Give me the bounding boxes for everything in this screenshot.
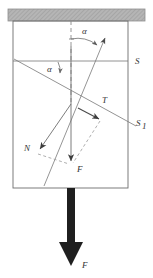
f-outer-vector-label: F — [81, 260, 88, 270]
angle-top-label: α — [82, 26, 87, 36]
svg-text:1: 1 — [142, 121, 147, 131]
f-inner-vector-label: F — [76, 164, 83, 174]
n-vector-label: N — [23, 143, 31, 153]
s1-inclined-line — [14, 59, 136, 126]
parallelogram-dashed-line-right — [73, 121, 100, 163]
force-diagram: α α T N F S S 1 F — [0, 0, 153, 278]
svg-text:S: S — [136, 118, 141, 128]
s-line-label: S — [135, 56, 140, 66]
s1-line-label: S 1 — [136, 118, 147, 131]
diagram-canvas: α α T N F S S 1 F — [0, 0, 153, 278]
angle-arc-left — [58, 62, 60, 73]
angle-left-label: α — [47, 64, 52, 74]
angle-arc-top — [71, 38, 97, 45]
t-vector-label: T — [102, 95, 108, 105]
hatched-ceiling — [8, 9, 145, 21]
upper-inclined-arrow — [44, 38, 105, 186]
t-vector — [78, 108, 99, 119]
n-vector — [40, 104, 71, 149]
bold-f-arrow — [59, 188, 83, 266]
